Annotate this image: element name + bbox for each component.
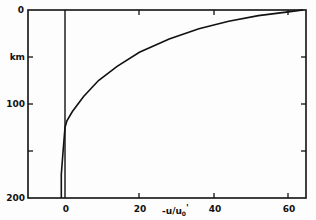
- x-tick-label-60: 60: [283, 204, 296, 214]
- x-tick-label-0: 0: [63, 204, 69, 214]
- x-axis-title-main: -u/u: [162, 206, 182, 216]
- x-tick-label-20: 20: [134, 204, 147, 214]
- x-axis-title: -u/u0': [162, 203, 189, 217]
- plot-frame: [28, 10, 306, 198]
- y-tick-label-0: 0: [18, 5, 24, 15]
- chart: 0 km 100 200 0 20 40 60 -u/u0': [0, 0, 316, 220]
- y-axis-unit-km: km: [10, 52, 25, 62]
- y-tick-label-200: 200: [6, 193, 25, 203]
- x-axis-title-prime: ': [186, 203, 189, 213]
- y-tick-label-100: 100: [6, 99, 25, 109]
- x-tick-label-40: 40: [209, 204, 222, 214]
- profile-curve: [61, 10, 303, 198]
